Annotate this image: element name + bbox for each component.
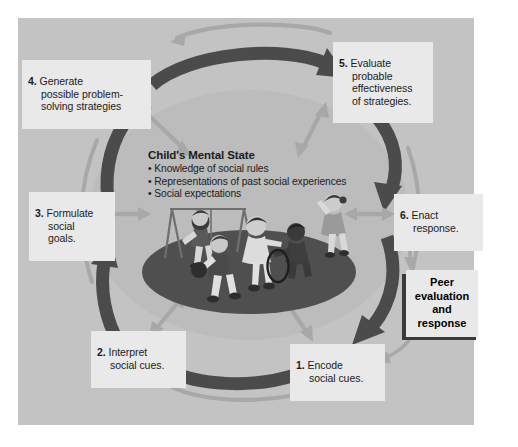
center-text-block: Child's Mental State • Knowledge of soci… (148, 148, 374, 201)
center-bullet-text: Social expectations (154, 188, 241, 199)
center-bullet-item: • Representations of past social experie… (148, 176, 374, 189)
outcome-box: Peer evaluation and response (406, 270, 478, 337)
step-label-1: 1. Encode social cues. (290, 344, 385, 401)
center-bullet-item: • Social expectations (148, 188, 374, 201)
step-number-3: 3. (35, 207, 44, 219)
diagram-stage: Child's Mental State • Knowledge of soci… (0, 0, 518, 447)
center-bullet-item: • Knowledge of social rules (148, 163, 374, 176)
step-label-4: 4. Generate possible problem- solving st… (22, 60, 151, 129)
center-bullet-text: Knowledge of social rules (154, 163, 268, 174)
center-title: Child's Mental State (148, 148, 374, 162)
step-number-1: 1. (296, 359, 305, 371)
step-text-4: Generate possible problem- solving strat… (40, 75, 123, 112)
step-text-5: Evaluate probable effectiveness of strat… (351, 57, 413, 106)
center-bullet-list: • Knowledge of social rules • Representa… (148, 163, 374, 201)
step-number-2: 2. (97, 346, 106, 358)
step-number-6: 6. (400, 209, 409, 221)
step-number-5: 5. (339, 57, 348, 69)
step-text-6: Enact response. (412, 209, 459, 233)
step-number-4: 4. (28, 75, 37, 87)
step-label-6: 6. Enact response. (394, 194, 483, 251)
step-text-1: Encode social cues. (308, 359, 364, 383)
step-text-2: Interpret social cues. (109, 346, 165, 370)
center-bullet-text: Representations of past social experienc… (154, 176, 346, 187)
step-label-5: 5. Evaluate probable effectiveness of st… (333, 42, 433, 123)
step-label-3: 3. Formulate social goals. (29, 192, 115, 261)
step-label-2: 2. Interpret social cues. (91, 331, 186, 388)
step-text-3: Formulate social goals. (47, 207, 94, 244)
figure-root: Child's Mental State • Knowledge of soci… (0, 0, 518, 447)
